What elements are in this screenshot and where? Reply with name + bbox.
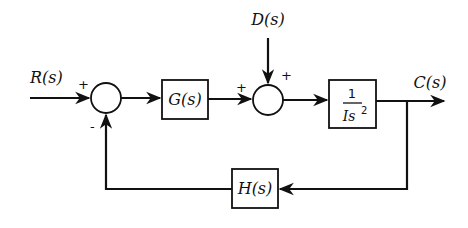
sum1-minus-sign: - bbox=[90, 119, 95, 134]
feedback-return-arrow bbox=[106, 115, 232, 189]
sum2-plus-sign-disturbance: + bbox=[281, 68, 292, 83]
disturbance-signal-label: D(s) bbox=[250, 10, 285, 29]
block-diagram: R(s) + - G(s) + D(s) + 1 Is 2 C(s) H(s) bbox=[0, 0, 468, 228]
summing-junction-2 bbox=[253, 85, 283, 115]
input-signal-label: R(s) bbox=[29, 68, 63, 87]
plant-numerator: 1 bbox=[348, 86, 356, 101]
sum2-plus-sign-forward: + bbox=[236, 80, 247, 95]
plant-denominator-exponent: 2 bbox=[361, 105, 367, 116]
sum1-plus-sign: + bbox=[78, 77, 89, 92]
summing-junction-1 bbox=[91, 83, 121, 113]
plant-denominator: Is bbox=[342, 108, 356, 124]
controller-label: G(s) bbox=[168, 90, 201, 109]
feedback-label: H(s) bbox=[237, 179, 273, 198]
output-signal-label: C(s) bbox=[414, 73, 447, 92]
